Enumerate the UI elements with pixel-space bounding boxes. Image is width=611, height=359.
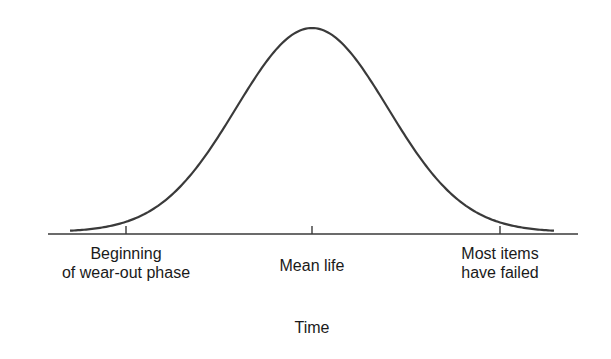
tick-label-beginning: Beginning of wear-out phase [46,244,206,282]
x-axis-title: Time [272,318,352,337]
chart-plot-area [0,0,611,359]
label-line: have failed [440,263,560,282]
tick-label-mean: Mean life [252,256,372,275]
label-line: Most items [440,244,560,263]
label-line: Beginning [46,244,206,263]
bell-curve [70,28,554,231]
label-line: of wear-out phase [46,263,206,282]
tick-label-end: Most items have failed [440,244,560,282]
